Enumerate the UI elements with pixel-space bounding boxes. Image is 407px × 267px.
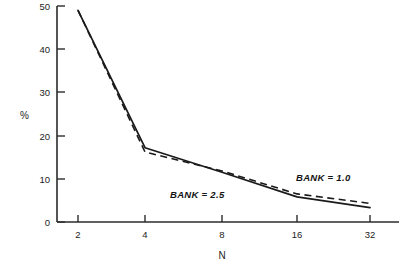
x-tick-label-2: 2 bbox=[75, 229, 80, 240]
x-tick-label-4: 4 bbox=[142, 229, 147, 240]
y-tick-label-0: 0 bbox=[45, 217, 50, 228]
y-axis-title: % bbox=[20, 110, 29, 121]
series-annotations: BANK = 2.5 BANK = 1.0 bbox=[170, 172, 351, 200]
y-tick-label-40: 40 bbox=[39, 44, 50, 55]
annotation-bank-2-5: BANK = 2.5 bbox=[170, 189, 225, 200]
y-tick-label-30: 30 bbox=[39, 87, 50, 98]
line-chart-svg: 50 40 30 20 10 0 % 2 4 8 16 32 N bbox=[0, 0, 407, 267]
chart-figure: 50 40 30 20 10 0 % 2 4 8 16 32 N bbox=[0, 0, 407, 267]
x-tick-label-32: 32 bbox=[365, 229, 376, 240]
x-axis-title: N bbox=[218, 250, 225, 261]
y-tick-label-20: 20 bbox=[39, 131, 50, 142]
x-axis: 2 4 8 16 32 N bbox=[57, 215, 399, 261]
y-axis: 50 40 30 20 10 0 % bbox=[20, 1, 65, 228]
y-tick-label-50: 50 bbox=[39, 1, 50, 12]
y-tick-label-10: 10 bbox=[39, 174, 50, 185]
x-tick-label-16: 16 bbox=[292, 229, 303, 240]
x-tick-label-8: 8 bbox=[219, 229, 224, 240]
annotation-bank-1-0: BANK = 1.0 bbox=[296, 172, 351, 183]
